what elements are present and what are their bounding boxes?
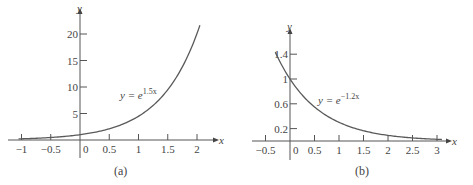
chart-a-x-tick-label: −1	[16, 143, 28, 155]
chart-b-x-tick-label: 1	[336, 144, 342, 156]
chart-b-ticks: −0.500.511.522.530.20.611.4	[256, 48, 441, 156]
chart-b-y-tick-label: 0.6	[274, 98, 288, 110]
chart-b-equation-exponent: −1.2x	[341, 92, 360, 101]
chart-b-x-axis-label: x	[451, 135, 457, 147]
chart-b-equation-label: y = e−1.2x	[317, 92, 359, 106]
chart-a-caption: (a)	[114, 164, 127, 178]
chart-b-y-tick-label: 0.2	[274, 123, 288, 135]
chart-a: −1−0.500.511.525101520 x y y = e1.5x (a)	[8, 2, 224, 178]
chart-a-x-tick-label: 1.5	[161, 143, 175, 155]
chart-a-equation-exponent: 1.5x	[143, 87, 157, 96]
chart-a-y-axis-label: y	[76, 2, 82, 14]
chart-b-x-tick-label: 0.5	[308, 144, 322, 156]
chart-a-y-tick-label: 5	[73, 108, 79, 120]
chart-b-x-tick-label: 3	[434, 144, 440, 156]
chart-b-caption: (b)	[355, 164, 369, 178]
chart-a-x-tick-label: 2	[194, 143, 200, 155]
chart-b-x-tick-label: 2	[385, 144, 391, 156]
chart-a-y-tick-label: 20	[67, 28, 79, 40]
chart-b-y-axis-label: y	[286, 20, 292, 32]
chart-b-x-tick-label: 1.5	[357, 144, 371, 156]
chart-b-x-tick-label: 2.5	[406, 144, 420, 156]
chart-b: −0.500.511.522.530.20.611.4 x y y = e−1.…	[252, 20, 457, 178]
chart-b-x-tick-label: −0.5	[256, 144, 276, 156]
chart-a-y-tick-label: 10	[67, 81, 79, 93]
chart-a-curve	[19, 25, 200, 139]
chart-a-x-axis-label: x	[218, 134, 224, 146]
chart-a-x-tick-label: 0.5	[102, 143, 116, 155]
chart-b-x-tick-label: 0	[293, 144, 299, 156]
chart-a-equation-label: y = e1.5x	[119, 87, 157, 101]
chart-a-x-tick-label: 1	[136, 143, 142, 155]
figure: −1−0.500.511.525101520 x y y = e1.5x (a)…	[0, 0, 473, 185]
chart-a-x-tick-label: 0	[83, 143, 89, 155]
chart-b-equation-base: y = e	[317, 94, 341, 106]
chart-a-equation-base: y = e	[119, 89, 143, 101]
chart-a-ticks: −1−0.500.511.525101520	[16, 28, 200, 155]
chart-a-y-tick-label: 15	[67, 55, 79, 67]
chart-a-axes	[8, 8, 219, 158]
chart-a-x-tick-label: −0.5	[41, 143, 61, 155]
